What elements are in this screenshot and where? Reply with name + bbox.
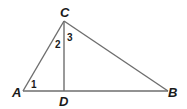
segment-cb — [64, 21, 168, 91]
angle-label-3: 3 — [67, 32, 73, 43]
point-label-b: B — [168, 85, 177, 100]
point-label-c: C — [60, 5, 70, 20]
angle-label-1: 1 — [31, 79, 37, 90]
angle-label-2: 2 — [55, 39, 61, 50]
triangle-diagram: C A D B 1 2 3 — [0, 0, 187, 109]
point-label-a: A — [11, 85, 21, 100]
point-label-d: D — [59, 94, 69, 109]
segment-ac — [23, 21, 64, 91]
